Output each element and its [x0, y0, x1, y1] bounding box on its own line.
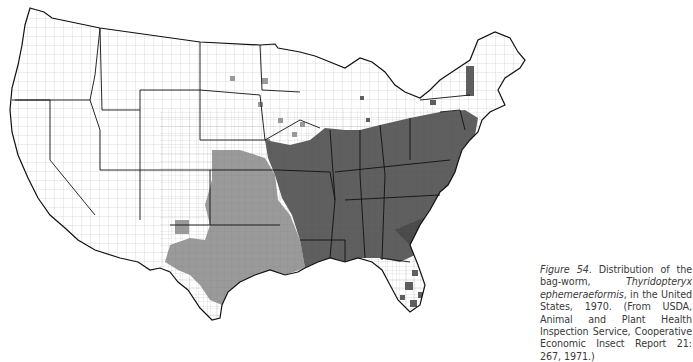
- figure-caption: Figure 54. Distribution of the bag-worm,…: [540, 264, 692, 362]
- us-distribution-map: [0, 0, 560, 362]
- figure-label: Figure 54: [540, 264, 589, 275]
- map-land: [0, 0, 560, 362]
